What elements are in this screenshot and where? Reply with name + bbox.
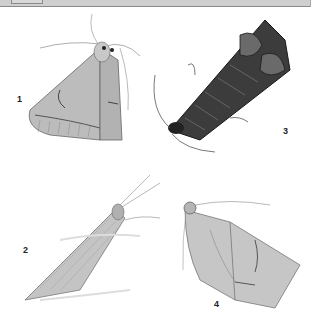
- header-bar: [0, 0, 310, 7]
- moth-1-figure: [29, 14, 140, 140]
- moth-4-figure: [183, 202, 300, 309]
- header-tab: [11, 0, 43, 4]
- moth-3-figure: [154, 20, 290, 152]
- figure-label-2: 2: [23, 245, 28, 255]
- moth-illustrations: [0, 8, 320, 323]
- figure-label-4: 4: [214, 299, 219, 309]
- figure-label-1: 1: [17, 94, 22, 104]
- moth-2-figure: [25, 175, 160, 300]
- figure-label-3: 3: [283, 126, 288, 136]
- header-edge: [310, 0, 311, 7]
- illustration-plate: 1 2 3 4: [0, 8, 320, 323]
